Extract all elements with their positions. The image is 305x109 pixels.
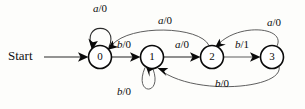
edge-label-3-to-2: a/0 (267, 16, 282, 28)
state-label-1: 1 (149, 50, 155, 62)
state-label-2: 2 (209, 50, 215, 62)
state-node-2[interactable]: 2 (201, 46, 224, 69)
state-diagram-canvas: Start a/0 b/0 a/0 b/1 (0, 0, 305, 109)
state-node-0[interactable]: 0 (89, 46, 112, 69)
transition-0-to-1 (112, 52, 141, 62)
state-label-3: 3 (269, 50, 275, 62)
state-label-0: 0 (97, 50, 103, 62)
start-label: Start (8, 48, 33, 63)
transition-1-to-2 (164, 52, 201, 62)
edge-label-1-to-2: a/0 (175, 38, 190, 50)
state-node-1[interactable]: 1 (141, 46, 164, 69)
edge-label-0-to-0: a/0 (93, 2, 108, 14)
edge-label-1-to-1: b/0 (117, 85, 132, 97)
state-node-3[interactable]: 3 (261, 46, 284, 69)
edge-label-2-to-3: b/1 (235, 38, 249, 50)
edge-label-2-to-0: a/0 (158, 14, 173, 26)
edge-label-3-to-1: b/0 (215, 77, 230, 89)
start-arrow (44, 52, 89, 62)
state-diagram-svg: Start a/0 b/0 a/0 b/1 (0, 0, 305, 109)
transition-2-to-3 (224, 52, 261, 62)
